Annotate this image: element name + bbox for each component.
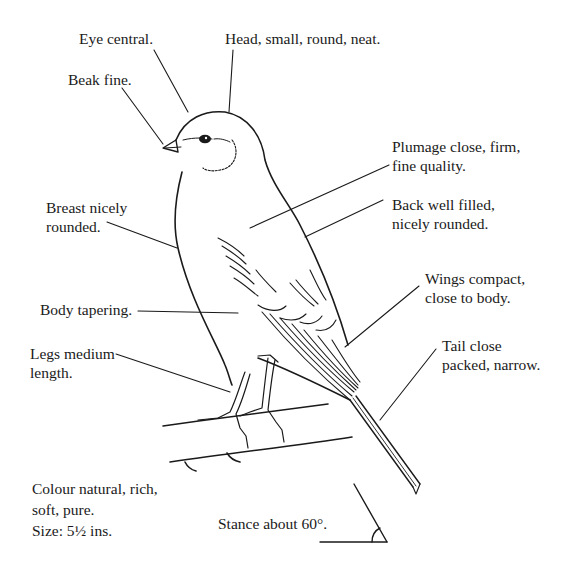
label-stance: Stance about 60°. (218, 514, 327, 533)
label-body: Body tapering. (40, 300, 132, 319)
stance-angle-diagram (320, 484, 387, 542)
label-wings: Wings compact, close to body. (425, 269, 525, 307)
legs (198, 355, 284, 448)
label-text: close to body. (425, 288, 525, 307)
perch (163, 404, 352, 471)
label-text: packed, narrow. (442, 355, 540, 374)
label-text: Eye central. (79, 29, 153, 48)
eye-icon (199, 135, 211, 143)
label-text: Plumage close, firm, (392, 137, 520, 156)
label-text: Legs medium (30, 344, 115, 363)
label-text: Back well filled, (392, 195, 495, 214)
label-breast: Breast nicely rounded. (46, 198, 127, 236)
label-eye: Eye central. (79, 29, 153, 48)
label-text: Breast nicely (46, 198, 127, 217)
label-text: Stance about 60°. (218, 514, 327, 533)
label-beak: Beak fine. (68, 70, 132, 89)
label-legs: Legs medium length. (30, 344, 115, 382)
label-text: Body tapering. (40, 300, 132, 319)
label-text: Head, small, round, neat. (225, 29, 380, 48)
label-text: rounded. (46, 217, 127, 236)
label-colour-size: Colour natural, rich, soft, pure. Size: … (32, 478, 158, 541)
label-text: Tail close (442, 336, 540, 355)
label-text: Beak fine. (68, 70, 132, 89)
label-head: Head, small, round, neat. (225, 29, 380, 48)
label-tail: Tail close packed, narrow. (442, 336, 540, 374)
label-text: fine quality. (392, 156, 520, 175)
label-text: soft, pure. (32, 499, 158, 520)
label-text: Wings compact, (425, 269, 525, 288)
label-back: Back well filled, nicely rounded. (392, 195, 495, 233)
label-plumage: Plumage close, firm, fine quality. (392, 137, 520, 175)
label-text: Colour natural, rich, (32, 478, 158, 499)
canary-diagram: Eye central. Head, small, round, neat. B… (0, 0, 568, 571)
leader-lines (107, 50, 436, 420)
label-text: length. (30, 363, 115, 382)
wing-feathers (218, 238, 420, 494)
label-text: Size: 5½ ins. (32, 520, 158, 541)
label-text: nicely rounded. (392, 214, 495, 233)
